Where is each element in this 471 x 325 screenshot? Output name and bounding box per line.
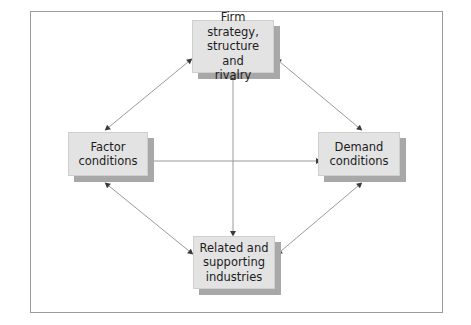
node-factor-conditions[interactable]: Factor conditions (68, 132, 148, 176)
node-label-related-supporting: Related and supporting industries (198, 241, 270, 285)
node-demand-conditions[interactable]: Demand conditions (318, 132, 400, 176)
figure-root: Firm strategy, structure and rivalry Fac… (0, 0, 471, 325)
node-label-factor-conditions: Factor conditions (73, 140, 143, 169)
connector-bottom-right-diagonal (281, 186, 358, 251)
node-label-firm-strategy: Firm strategy, structure and rivalry (197, 10, 269, 83)
node-label-demand-conditions: Demand conditions (323, 140, 395, 169)
node-related-supporting[interactable]: Related and supporting industries (193, 236, 275, 289)
node-firm-strategy[interactable]: Firm strategy, structure and rivalry (192, 20, 274, 73)
connector-bottom-left-diagonal (109, 186, 189, 251)
connector-top-right-diagonal (280, 62, 358, 127)
connector-top-left-diagonal (109, 62, 188, 127)
